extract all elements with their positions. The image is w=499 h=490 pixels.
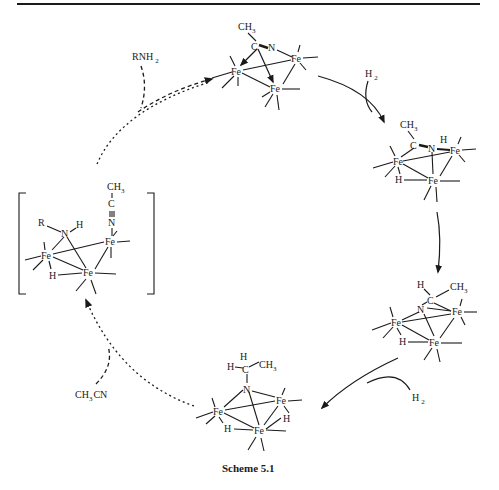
amine-arrow xyxy=(141,66,145,108)
h2-bottom-arrow xyxy=(367,377,410,390)
structure-right-upper: CH3 C N H Fe Fe Fe H xyxy=(373,119,476,202)
acetonitrile-label: CH3CN xyxy=(75,389,107,403)
structure-right-lower: H C CH3 N Fe Fe Fe H xyxy=(372,279,477,362)
reaction-scheme: CH3 C N Fe Fe Fe CH3 C N xyxy=(0,0,499,490)
ch3-label: CH3 xyxy=(238,21,256,35)
c-label: C xyxy=(251,41,258,52)
fe-label: Fe xyxy=(41,250,52,261)
h2-top-label: H2 xyxy=(365,68,378,82)
fe-label: Fe xyxy=(254,425,265,436)
n-label: N xyxy=(268,42,275,53)
fe-label: Fe xyxy=(105,236,116,247)
fe-label: Fe xyxy=(291,53,302,64)
h2-top-arrow xyxy=(366,81,372,112)
h-label: H xyxy=(240,351,247,362)
c-label: C xyxy=(427,295,434,306)
structure-bottom: H H C CH3 N Fe Fe Fe H H xyxy=(196,351,302,451)
structure-top: CH3 C N Fe Fe Fe xyxy=(212,21,318,110)
fe-label: Fe xyxy=(428,175,439,186)
fe-label: Fe xyxy=(429,337,440,348)
fe-label: Fe xyxy=(391,317,402,328)
fe-label: Fe xyxy=(83,267,94,278)
c-label: C xyxy=(242,364,249,375)
ch3-label: CH3 xyxy=(400,119,418,133)
reaction-arrow-2 xyxy=(437,212,440,272)
reaction-arrow-3 xyxy=(322,358,398,408)
fe-label: Fe xyxy=(213,406,224,417)
r-label: R xyxy=(38,217,45,228)
scheme-caption: Scheme 5.1 xyxy=(222,462,275,474)
amine-label: RNH2 xyxy=(132,51,159,65)
acetonitrile-arrow xyxy=(96,346,110,384)
h-label: H xyxy=(417,279,424,290)
c-label: C xyxy=(108,198,115,209)
structure-left-intermediate: CH3 C N Fe R N H Fe Fe H xyxy=(19,181,154,294)
h-label: H xyxy=(76,219,83,230)
fe-label: Fe xyxy=(452,306,463,317)
fe-label: Fe xyxy=(393,156,404,167)
h-label: H xyxy=(283,413,290,424)
fe-label: Fe xyxy=(276,395,287,406)
h-label: H xyxy=(399,336,406,347)
h2-bottom-label: H2 xyxy=(412,392,425,406)
fe-label: Fe xyxy=(231,66,242,77)
h-label: H xyxy=(224,423,231,434)
n-label: N xyxy=(108,217,115,228)
ch3-label: CH3 xyxy=(107,181,125,195)
h-label: H xyxy=(227,361,234,372)
ch3-label: CH3 xyxy=(259,359,277,373)
reaction-arrow-5a xyxy=(97,82,210,164)
h-label: H xyxy=(440,134,447,145)
fe-label: Fe xyxy=(270,83,281,94)
reaction-arrow-1 xyxy=(318,76,384,122)
h-label: H xyxy=(49,270,56,281)
n-label: N xyxy=(417,304,424,315)
right-bracket xyxy=(147,193,154,294)
h-label: H xyxy=(395,174,402,185)
c-label: C xyxy=(410,140,417,151)
left-bracket xyxy=(19,193,26,294)
ch3-label: CH3 xyxy=(450,281,468,295)
fe-label: Fe xyxy=(450,145,461,156)
